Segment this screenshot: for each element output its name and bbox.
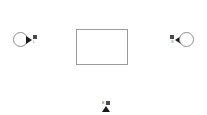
right-camera-label: R xyxy=(171,40,174,44)
bottom-camera-label: B xyxy=(102,101,104,105)
center-plane[interactable] xyxy=(76,29,128,65)
bottom-camera-marker[interactable]: B xyxy=(99,101,110,112)
left-camera-swatch-icon xyxy=(33,35,37,39)
right-camera-swatch-icon xyxy=(170,35,174,39)
bottom-camera-swatch-icon xyxy=(106,101,110,105)
left-camera-label-group: L xyxy=(33,35,37,44)
left-camera-marker[interactable]: L xyxy=(13,32,37,47)
bottom-camera-cone-icon xyxy=(102,106,110,112)
bottom-camera-label-group: B xyxy=(102,101,110,105)
right-camera-body-icon xyxy=(179,32,194,47)
left-camera-label: L xyxy=(33,40,35,44)
scene-canvas: L R B xyxy=(0,0,207,115)
left-camera-cone-icon xyxy=(26,36,32,44)
right-camera-label-group: R xyxy=(170,35,174,44)
right-camera-marker[interactable]: R xyxy=(170,32,194,47)
